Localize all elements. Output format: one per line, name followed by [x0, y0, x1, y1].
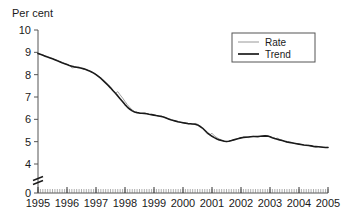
x-axis-tick-label: 2000 — [171, 197, 195, 209]
chart-plot-area: 045678910 199519961997199819992000200120… — [0, 0, 341, 218]
y-axis-tick-label: 5 — [25, 136, 31, 148]
x-axis: 1995199619971998199920002001200220032004… — [26, 187, 340, 209]
x-axis-tick-label: 1997 — [84, 197, 108, 209]
series-line-trend — [38, 53, 328, 147]
x-axis-tick-label: 1995 — [26, 197, 50, 209]
legend-label-trend: Trend — [265, 49, 291, 60]
y-axis-tick-label: 7 — [25, 91, 31, 103]
x-axis-tick-label: 1999 — [142, 197, 166, 209]
x-axis-tick-label: 1996 — [55, 197, 79, 209]
x-axis-tick-label: 1998 — [113, 197, 137, 209]
x-axis-tick-label: 2003 — [258, 197, 282, 209]
y-axis-tick-label: 9 — [25, 46, 31, 58]
x-axis-tick-label: 2005 — [316, 197, 340, 209]
y-axis: 045678910 — [19, 24, 43, 199]
data-series — [38, 53, 328, 147]
y-axis-tick-label: 4 — [25, 158, 31, 170]
y-axis-tick-label: 6 — [25, 113, 31, 125]
y-axis-tick-label: 8 — [25, 69, 31, 81]
chart-legend: RateTrend — [232, 33, 315, 62]
legend-label-rate: Rate — [265, 37, 287, 48]
y-axis-tick-label: 10 — [19, 24, 31, 36]
unemployment-rate-chart: Per cent 045678910 199519961997199819992… — [0, 0, 341, 218]
x-axis-tick-label: 2004 — [287, 197, 311, 209]
x-axis-tick-label: 2001 — [200, 197, 224, 209]
x-axis-tick-label: 2002 — [229, 197, 253, 209]
